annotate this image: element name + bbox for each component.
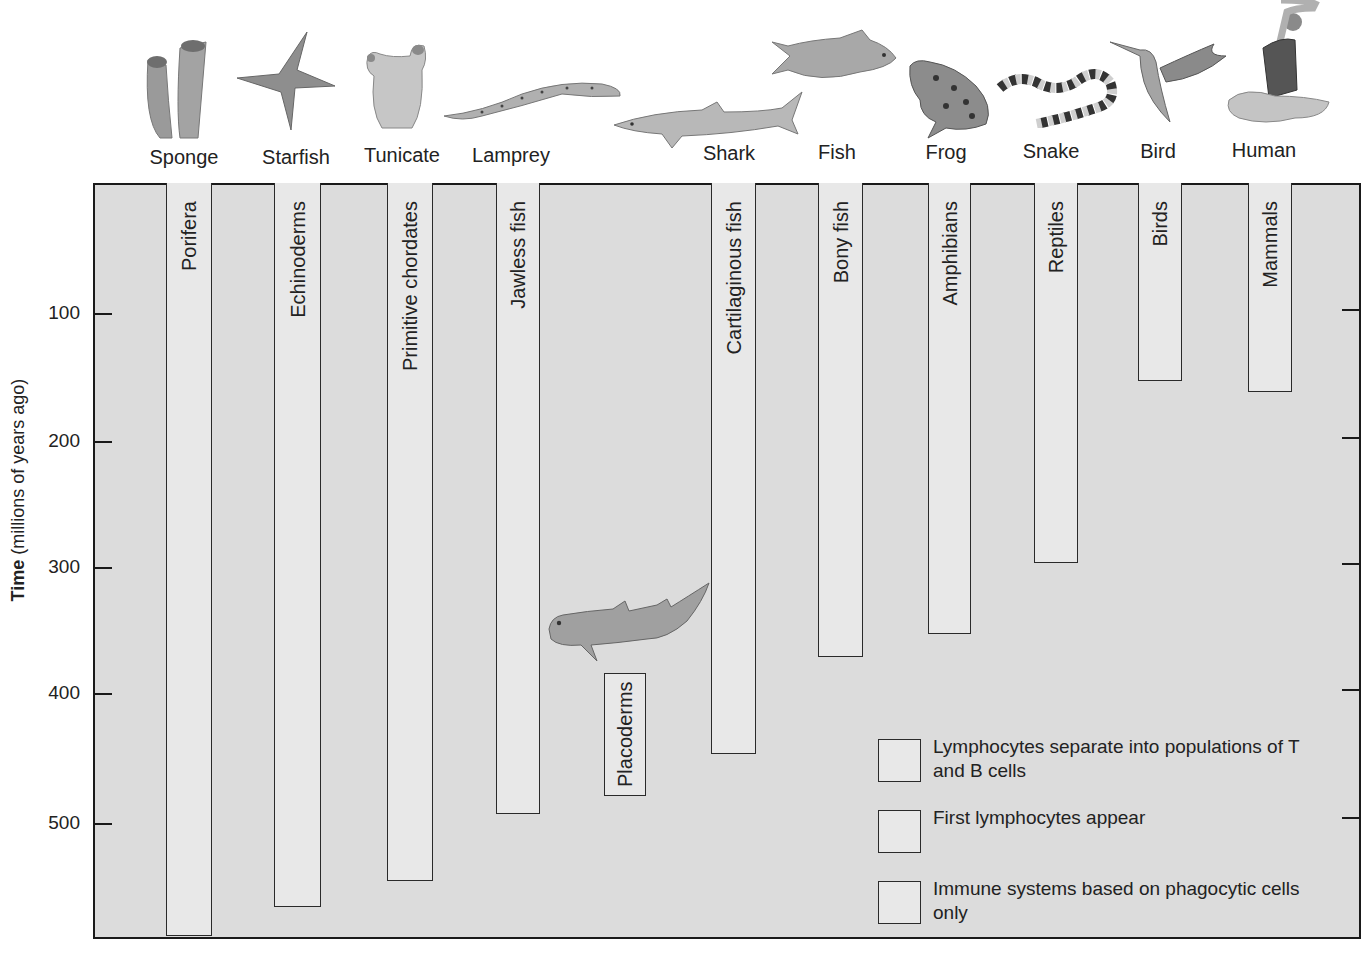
organism-label-lamprey: Lamprey [472,144,550,167]
y-tick-400-left [95,693,112,695]
lamprey-icon [442,72,624,122]
bar-label-echinoderms: Echinoderms [286,201,309,318]
y-tick-300-left [95,567,112,569]
bird-icon [1110,38,1230,124]
bar-mammals: Mammals [1248,183,1292,392]
y-tick-100-left [95,313,112,315]
organism-label-starfish: Starfish [262,146,330,169]
organism-label-tunicate: Tunicate [364,144,440,167]
legend-label: Lymphocytes separate into populations of… [933,735,1313,783]
bar-label-primitive-chordates: Primitive chordates [399,201,422,371]
y-tick-200-left [95,441,112,443]
organism-label-shark: Shark [703,142,755,165]
y-tick-200-right [1342,437,1359,439]
y-tick-label-500: 500 [20,812,80,834]
bar-label-porifera: Porifera [178,201,201,271]
bar-jawless-fish: Jawless fish [496,183,540,814]
legend-swatch [878,739,921,782]
y-tick-label-300: 300 [20,556,80,578]
organism-label-bird: Bird [1140,140,1176,163]
y-tick-label-200: 200 [20,430,80,452]
y-tick-500-left [95,823,112,825]
bar-birds: Birds [1138,183,1182,381]
frog-icon [906,56,996,140]
organism-label-fish: Fish [818,141,856,164]
tunicate-icon [362,40,432,132]
y-tick-100-right [1342,309,1359,311]
bar-reptiles: Reptiles [1034,183,1078,563]
bar-label-jawless-fish: Jawless fish [507,201,530,309]
bar-bony-fish: Bony fish [818,183,863,657]
legend-swatch [878,881,921,924]
bar-label-bony-fish: Bony fish [829,201,852,283]
bar-label-birds: Birds [1149,201,1172,247]
organism-label-frog: Frog [925,141,966,164]
human-icon [1225,0,1335,126]
y-tick-500-right [1342,817,1359,819]
legend-label: First lymphocytes appear [933,806,1313,830]
legend-swatch [878,810,921,853]
bar-label-cartilaginous-fish: Cartilaginous fish [722,201,745,354]
y-tick-label-100: 100 [20,302,80,324]
bar-cartilaginous-fish: Cartilaginous fish [711,183,756,754]
y-axis-title-rest: (millions of years ago) [8,379,28,560]
chart-plot-area: Porifera Echinoderms Primitive chordates… [93,183,1361,939]
bar-label-mammals: Mammals [1259,201,1282,288]
bar-porifera: Porifera [166,183,212,936]
starfish-icon [235,30,345,130]
y-tick-label-400: 400 [20,682,80,704]
placoderm-icon [547,581,712,663]
bar-label-amphibians: Amphibians [938,201,961,306]
snake-icon [996,58,1118,128]
bar-label-reptiles: Reptiles [1045,201,1068,273]
organism-label-sponge: Sponge [150,146,219,169]
organism-label-snake: Snake [1023,140,1080,163]
bar-amphibians: Amphibians [928,183,971,634]
bar-primitive-chordates: Primitive chordates [387,183,433,881]
y-tick-400-right [1342,689,1359,691]
placoderms-label: Placoderms [614,674,637,795]
organism-label-human: Human [1232,139,1296,162]
legend-label: Immune systems based on phagocytic cells… [933,877,1313,925]
y-tick-300-right [1342,563,1359,565]
shark-icon [612,90,804,150]
sponge-icon [140,20,220,140]
bar-echinoderms: Echinoderms [274,183,321,907]
fish-icon [770,28,900,84]
placoderms-box: Placoderms [604,673,646,796]
